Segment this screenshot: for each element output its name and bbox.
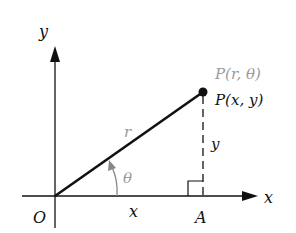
- x-axis-label: x: [264, 188, 273, 207]
- y-axis: [50, 46, 60, 228]
- polar-diagram: y x O P(r, θ) P(x, y) r y θ x A: [0, 0, 296, 233]
- radius-label: r: [124, 123, 132, 141]
- x-axis-arrow-icon: [242, 191, 258, 201]
- foot-label: A: [193, 208, 207, 227]
- right-angle-marker: [188, 181, 203, 196]
- y-length-label: y: [210, 135, 220, 153]
- angle-label: θ: [123, 169, 132, 187]
- rect-point-label: P(x, y): [214, 91, 263, 109]
- angle-arc: [108, 160, 117, 196]
- origin-label: O: [33, 208, 46, 227]
- y-axis-label: y: [38, 22, 49, 41]
- y-axis-arrow-icon: [50, 46, 60, 62]
- x-axis: [22, 191, 258, 201]
- angle-arrow-icon: [108, 160, 116, 171]
- polar-point-label: P(r, θ): [214, 65, 261, 83]
- point-p: [199, 88, 208, 97]
- x-length-label: x: [129, 202, 138, 221]
